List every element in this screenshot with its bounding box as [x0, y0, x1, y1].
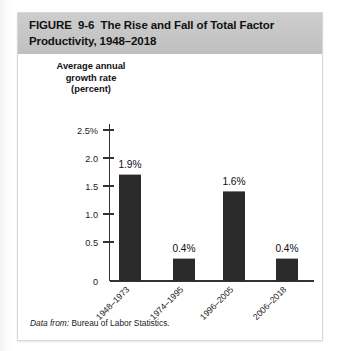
y-axis-title-line-3: (percent): [71, 84, 111, 94]
bar-1974-1995: [173, 259, 195, 281]
figure-card: FIGURE 9-6 The Rise and Fall of Total Fa…: [17, 12, 323, 341]
source-note-prefix: Data from:: [30, 318, 69, 328]
y-tick-label-1.5: 1.5: [85, 182, 98, 192]
figure-title: FIGURE 9-6 The Rise and Fall of Total Fa…: [29, 18, 312, 49]
figure-header-band: FIGURE 9-6 The Rise and Fall of Total Fa…: [18, 13, 322, 54]
x-category-label-1: 1948–1973: [94, 284, 132, 322]
bar-1996-2005: [223, 191, 245, 281]
value-label-1974-1995: 0.4%: [172, 243, 195, 254]
y-tick-label-0.5: 0.5: [85, 238, 98, 248]
value-label-1996-2005: 1.6%: [222, 176, 245, 187]
x-category-label-3: 1996–2005: [198, 284, 236, 322]
y-tick-label-2.5: 2.5%: [77, 126, 98, 136]
chart-plot-area: Average annual growth rate (percent) 2.5…: [18, 54, 322, 341]
source-note: Data from: Bureau of Labor Statistics.: [30, 318, 170, 328]
y-tick-label-0: 0: [93, 277, 98, 287]
value-label-1948-1973: 1.9%: [118, 159, 141, 170]
value-label-2006-2018: 0.4%: [275, 243, 298, 254]
x-category-label-2: 1974–1995: [148, 284, 186, 322]
x-category-label-4: 2006–2018: [251, 284, 289, 322]
bar-2006-2018: [276, 259, 298, 281]
bar-chart: Average annual growth rate (percent) 2.5…: [18, 54, 323, 341]
bar-1948-1973: [119, 175, 141, 281]
y-tick-label-1.0: 1.0: [85, 210, 98, 220]
y-axis-title-line-2: growth rate: [66, 73, 117, 83]
y-axis-title-line-1: Average annual: [57, 61, 126, 71]
source-note-text: Bureau of Labor Statistics.: [69, 318, 170, 328]
y-tick-label-2.0: 2.0: [85, 154, 98, 164]
